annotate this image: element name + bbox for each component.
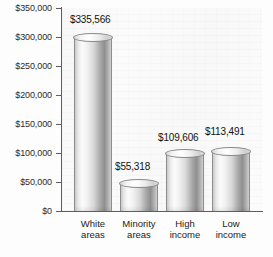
bar-top-cap — [165, 149, 205, 158]
value-label-white-areas: $335,566 — [70, 15, 111, 25]
y-tick-label-300000: $300,000 — [4, 33, 52, 42]
y-tick-350000 — [56, 8, 62, 9]
bar-bottom-shade — [167, 206, 203, 211]
y-tick-label-250000: $250,000 — [4, 62, 52, 71]
y-tick-250000 — [56, 66, 62, 67]
bar-body — [166, 153, 204, 211]
bar-top-cap — [211, 147, 251, 156]
category-label-line-1: Low — [200, 218, 262, 229]
category-label-low-income: Low income — [200, 218, 262, 240]
caption-fragment: ................ — [2, 250, 122, 255]
y-tick-label-150000: $150,000 — [4, 120, 52, 129]
y-tick-0 — [56, 211, 62, 212]
value-label-minority-areas: $55,318 — [115, 162, 150, 172]
y-tick-label-0: $0 — [4, 207, 52, 216]
bar-white-areas[interactable] — [74, 33, 112, 211]
y-tick-200000 — [56, 95, 62, 96]
bar-minority-areas[interactable] — [120, 179, 158, 211]
y-tick-label-100000: $100,000 — [4, 149, 52, 158]
value-label-high-income: $109,606 — [158, 133, 199, 143]
y-tick-label-50000: $50,000 — [4, 178, 52, 187]
y-tick-100000 — [56, 153, 62, 154]
y-tick-300000 — [56, 37, 62, 38]
bar-body — [74, 37, 112, 211]
y-tick-label-350000: $350,000 — [4, 4, 52, 13]
bar-bottom-shade — [121, 206, 157, 211]
bar-bottom-shade — [213, 206, 249, 211]
bar-bottom-shade — [75, 206, 111, 211]
y-tick-50000 — [56, 182, 62, 183]
bar-high-income[interactable] — [166, 149, 204, 211]
bar-low-income[interactable] — [212, 147, 250, 211]
bar-top-cap — [119, 179, 159, 188]
category-label-line-2: income — [200, 229, 262, 240]
y-tick-150000 — [56, 124, 62, 125]
chart-figure: $350,000 $300,000 $250,000 $200,000 $150… — [0, 0, 273, 257]
x-axis-line — [61, 211, 263, 212]
bar-top-cap — [73, 33, 113, 42]
value-label-low-income: $113,491 — [205, 127, 245, 137]
bar-body — [212, 151, 250, 211]
y-tick-label-200000: $200,000 — [4, 91, 52, 100]
